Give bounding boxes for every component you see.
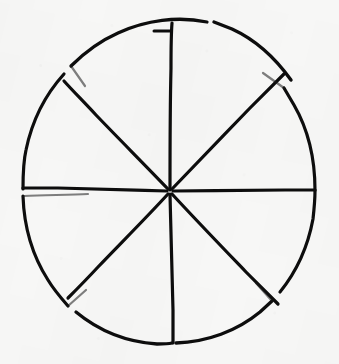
arc-slice-8 xyxy=(284,88,315,190)
arc-slice-6 xyxy=(176,301,272,343)
pie-sector-diagram: A roughly hand-drawn circle cut by four … xyxy=(0,0,339,364)
divider-270deg-lower xyxy=(170,194,173,343)
divider-225deg xyxy=(68,194,168,298)
figure-canvas: A roughly hand-drawn circle cut by four … xyxy=(0,0,339,364)
divider-90deg-upper xyxy=(170,23,172,190)
arc-slice-7 xyxy=(280,191,315,292)
divider-45deg xyxy=(172,74,284,189)
gap-connector-225deg xyxy=(68,290,86,306)
divider-180deg-left xyxy=(23,188,167,191)
arc-slice-2 xyxy=(71,19,207,66)
arc-slice-1 xyxy=(214,22,291,80)
divider-315deg xyxy=(172,194,278,304)
pie-divider-lines xyxy=(23,23,315,343)
arc-slice-3 xyxy=(23,74,64,189)
arc-slice-4 xyxy=(23,196,68,306)
arc-slice-5 xyxy=(76,312,172,344)
gap-connector-135deg xyxy=(71,66,85,86)
divider-180deg-left-stub xyxy=(24,194,88,196)
gap-connector-315deg xyxy=(256,283,272,301)
divider-135deg xyxy=(64,81,168,189)
divider-0deg-right xyxy=(173,190,315,191)
